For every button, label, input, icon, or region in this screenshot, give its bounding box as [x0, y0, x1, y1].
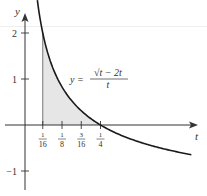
x-tick-denominator: 8 [60, 140, 64, 149]
y-tick-label: 2 [12, 28, 17, 39]
equation-lhs: y = [69, 74, 84, 85]
x-tick-denominator: 4 [99, 140, 103, 149]
x-tick-numerator: 1 [60, 131, 64, 139]
equation-denominator: t [107, 79, 110, 90]
equation-numerator: √t − 2t [94, 67, 122, 78]
x-tick-numerator: 1 [99, 131, 103, 139]
y-axis-label: y [14, 5, 20, 17]
equation-label: y = √t − 2t t [69, 67, 128, 90]
x-tick-denominator: 16 [77, 140, 85, 149]
y-tick-label: −1 [6, 166, 17, 177]
y-ticks: 21−1 [6, 28, 29, 177]
y-tick-label: 1 [12, 74, 17, 85]
x-axis-label: t [195, 130, 199, 142]
chart-canvas: y t 21−1 1161831614 y = √t − 2t t [0, 0, 207, 196]
x-tick-numerator: 1 [41, 131, 45, 139]
x-tick-numerator: 3 [80, 131, 84, 139]
x-tick-denominator: 16 [39, 140, 47, 149]
